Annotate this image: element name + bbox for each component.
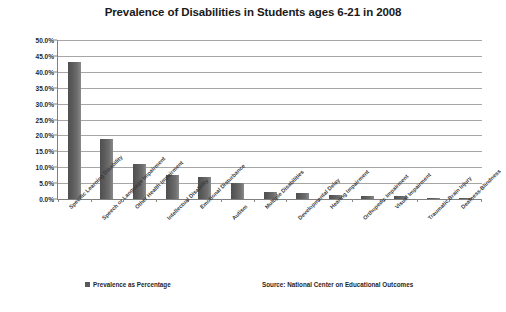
legend-label: Prevalence as Percentage <box>93 281 171 288</box>
y-axis-tick-label: 15.0% <box>0 148 54 155</box>
bar[interactable] <box>68 62 81 199</box>
x-axis-tick-mark <box>58 199 59 202</box>
x-axis-tick-mark <box>286 199 287 202</box>
y-axis-tick-label: 5.0% <box>0 180 54 187</box>
chart-figure: Prevalence of Disabilities in Students a… <box>0 0 506 312</box>
x-axis-tick-mark <box>91 199 92 202</box>
y-axis-tick-label: 10.0% <box>0 164 54 171</box>
y-axis-tick-label: 50.0% <box>0 37 54 44</box>
x-axis-tick-mark <box>156 199 157 202</box>
legend-color-swatch <box>85 282 90 287</box>
y-axis-tick-label: 20.0% <box>0 132 54 139</box>
chart-title: Prevalence of Disabilities in Students a… <box>0 6 506 18</box>
x-axis-tick-mark <box>481 199 482 202</box>
y-axis-tick-label: 35.0% <box>0 84 54 91</box>
x-axis-tick-mark <box>417 199 418 202</box>
x-axis-category-label: Autism <box>231 203 249 221</box>
bar[interactable] <box>231 183 244 199</box>
x-axis-tick-mark <box>352 199 353 202</box>
chart-legend: Prevalence as Percentage <box>85 281 171 288</box>
y-axis-tick-label: 40.0% <box>0 68 54 75</box>
y-axis-tick-label: 45.0% <box>0 52 54 59</box>
x-axis-tick-mark <box>254 199 255 202</box>
source-note: Source: National Center on Educational O… <box>262 281 413 288</box>
x-axis-tick-mark <box>221 199 222 202</box>
bars-layer <box>58 40 482 199</box>
y-axis-tick-label: 0.0% <box>0 196 54 203</box>
y-axis-tick-label: 30.0% <box>0 100 54 107</box>
y-axis-tick-labels: 0.0%5.0%10.0%15.0%20.0%25.0%30.0%35.0%40… <box>0 40 54 199</box>
y-axis-tick-label: 25.0% <box>0 116 54 123</box>
